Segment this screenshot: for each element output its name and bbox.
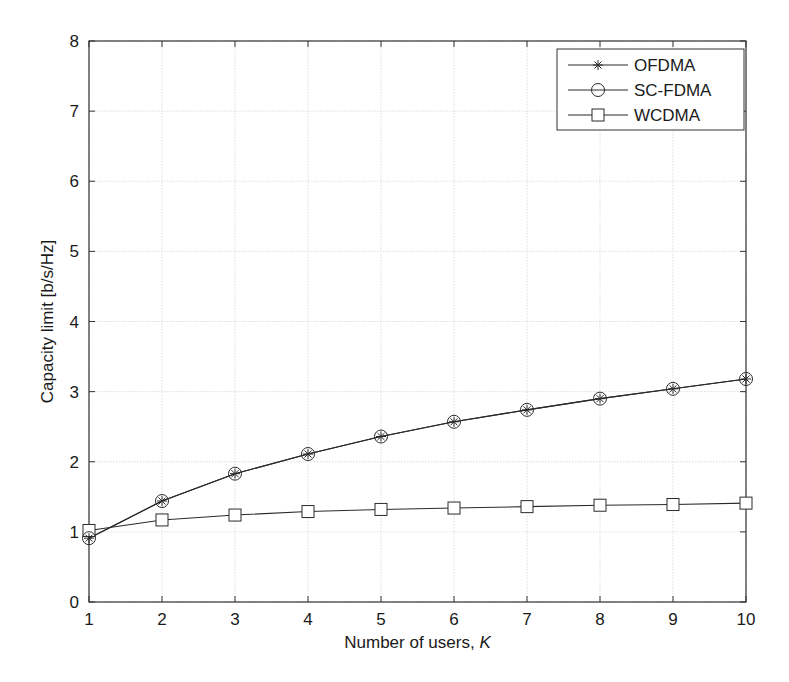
markers-ofdma (84, 374, 751, 543)
series-wcdma (89, 503, 746, 530)
y-tick-label: 3 (70, 383, 79, 402)
y-tick-label: 4 (70, 313, 79, 332)
markers-wcdma (83, 497, 752, 536)
x-tick-label: 6 (449, 610, 458, 629)
x-tick-label: 4 (303, 610, 312, 629)
y-tick-label: 8 (70, 32, 79, 51)
y-tick-label: 2 (70, 453, 79, 472)
legend-label: WCDMA (634, 106, 701, 125)
line-chart: 12345678910012345678 Number of users, K … (0, 0, 789, 682)
legend: OFDMASC-FDMAWCDMA (557, 49, 744, 130)
x-tick-label: 9 (668, 610, 677, 629)
y-tick-label: 7 (70, 102, 79, 121)
legend-label: OFDMA (634, 56, 696, 75)
y-tick-label: 5 (70, 242, 79, 261)
x-tick-label: 7 (522, 610, 531, 629)
data-series (83, 373, 753, 545)
y-tick-label: 6 (70, 172, 79, 191)
series-sc-fdma (89, 379, 746, 538)
series-ofdma (89, 379, 746, 538)
x-tick-label: 10 (737, 610, 756, 629)
legend-label: SC-FDMA (634, 81, 712, 100)
x-tick-label: 3 (230, 610, 239, 629)
y-axis-title: Capacity limit [b/s/Hz] (38, 240, 57, 403)
x-tick-label: 8 (595, 610, 604, 629)
x-tick-label: 2 (157, 610, 166, 629)
y-tick-label: 0 (70, 593, 79, 612)
x-tick-label: 5 (376, 610, 385, 629)
x-axis-title: Number of users, K (344, 633, 491, 652)
x-tick-label: 1 (84, 610, 93, 629)
y-tick-label: 1 (70, 523, 79, 542)
